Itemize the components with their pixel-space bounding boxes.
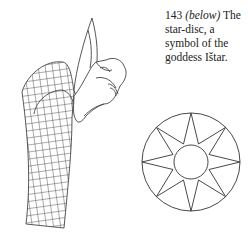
- illustrations-canvas: [0, 0, 250, 239]
- dragon-head-drawing: [22, 18, 126, 228]
- star-disc-drawing: [142, 113, 240, 211]
